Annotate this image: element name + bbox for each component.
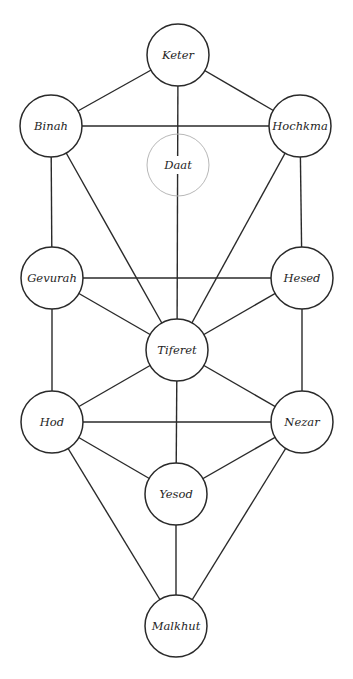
node-label: Malkhut: [151, 619, 201, 633]
node-hochkma: Hochkma: [269, 95, 331, 157]
node-label: Hochkma: [271, 119, 328, 133]
node-label: Hesed: [283, 271, 321, 285]
node-hod: Hod: [21, 391, 83, 453]
node-label: Keter: [161, 48, 196, 62]
node-gevurah: Gevurah: [21, 247, 83, 309]
node-label: Nezar: [283, 415, 321, 429]
node-label: Binah: [33, 119, 68, 133]
tree-of-life-diagram: KeterBinahHochkmaDaatGevurahHesedTiferet…: [0, 0, 353, 679]
edge-nezar-malkhut: [176, 422, 302, 626]
edge-hochkma-tiferet: [177, 126, 300, 350]
edge-hod-malkhut: [52, 422, 176, 626]
node-hesed: Hesed: [271, 247, 333, 309]
node-label: Gevurah: [27, 271, 77, 285]
node-keter: Keter: [147, 24, 209, 86]
node-yesod: Yesod: [145, 463, 207, 525]
node-binah: Binah: [20, 95, 82, 157]
node-label: Hod: [39, 415, 64, 429]
node-label: Tiferet: [157, 343, 197, 357]
node-label: Yesod: [159, 487, 193, 501]
edge-keter-tiferet: [177, 55, 178, 350]
edge-binah-tiferet: [51, 126, 177, 350]
node-nezar: Nezar: [271, 391, 333, 453]
node-label: Daat: [163, 158, 192, 172]
node-malkhut: Malkhut: [145, 595, 207, 657]
node-tiferet: Tiferet: [146, 319, 208, 381]
